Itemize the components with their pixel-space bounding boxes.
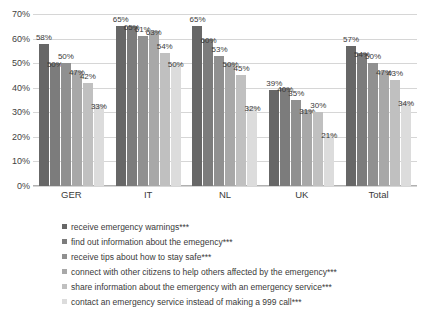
legend-item[interactable]: connect with other citizens to help othe…	[62, 264, 422, 279]
bar-value-label: 50%	[58, 53, 74, 61]
bar-group: 58%50%50%47%42%33%	[33, 14, 110, 186]
bar: 47%	[379, 71, 389, 186]
gridline	[33, 186, 417, 187]
legend-item[interactable]: share information about the emergency wi…	[62, 279, 422, 294]
legend-label: receive tips about how to stay safe***	[71, 252, 211, 262]
legend-item[interactable]: receive emergency warnings***	[62, 219, 422, 234]
bar-value-label: 43%	[387, 70, 403, 78]
bar: 34%	[401, 102, 411, 186]
bar-group: 65%65%61%63%54%50%	[110, 14, 187, 186]
x-axis-label: UK	[263, 188, 340, 204]
bar-value-label: 63%	[146, 29, 162, 37]
bar: 50%	[50, 63, 60, 186]
y-axis-tick: 30%	[12, 108, 30, 117]
bar-value-label: 34%	[398, 100, 414, 108]
legend-label: contact an emergency service instead of …	[71, 297, 302, 307]
bar-value-label: 30%	[310, 102, 326, 110]
bar: 65%	[116, 26, 126, 186]
legend-swatch-icon	[62, 254, 67, 259]
y-axis-tick: 50%	[12, 59, 30, 68]
chart-legend: receive emergency warnings***find out in…	[62, 219, 422, 309]
y-axis-tick: 60%	[12, 34, 30, 43]
bar-value-label: 45%	[233, 65, 249, 73]
bar: 54%	[160, 53, 170, 186]
bar-value-label: 58%	[36, 34, 52, 42]
y-axis-tick: 10%	[12, 157, 30, 166]
y-axis: 70%60%50%40%30%20%10%0%	[0, 0, 32, 205]
bar-value-label: 60%	[200, 37, 216, 45]
bar-value-label: 42%	[80, 73, 96, 81]
bar-value-label: 35%	[288, 90, 304, 98]
bar-groups: 58%50%50%47%42%33%65%65%61%63%54%50%65%6…	[33, 14, 417, 186]
bar: 45%	[236, 75, 246, 186]
legend-label: share information about the emergency wi…	[71, 282, 332, 292]
bar: 50%	[225, 63, 235, 186]
bar-value-label: 32%	[244, 105, 260, 113]
bar: 42%	[83, 83, 93, 186]
bar: 54%	[357, 53, 367, 186]
bar-value-label: 57%	[343, 36, 359, 44]
legend-item[interactable]: contact an emergency service instead of …	[62, 294, 422, 309]
bar-value-label: 53%	[211, 46, 227, 54]
legend-swatch-icon	[62, 224, 67, 229]
y-axis-tick: 0%	[17, 182, 30, 191]
legend-item[interactable]: receive tips about how to stay safe***	[62, 249, 422, 264]
bar: 40%	[280, 88, 290, 186]
bar: 50%	[171, 63, 181, 186]
bar-value-label: 54%	[157, 43, 173, 51]
x-axis-label: Total	[340, 188, 417, 204]
bar: 65%	[192, 26, 202, 186]
plot-area: 58%50%50%47%42%33%65%65%61%63%54%50%65%6…	[33, 14, 417, 186]
bar: 31%	[302, 110, 312, 186]
bar: 50%	[368, 63, 378, 186]
x-axis-label: NL	[187, 188, 264, 204]
bar: 65%	[127, 26, 137, 186]
x-axis-label: IT	[110, 188, 187, 204]
legend-swatch-icon	[62, 299, 67, 304]
legend-swatch-icon	[62, 284, 67, 289]
bar: 43%	[390, 80, 400, 186]
x-axis-label: GER	[33, 188, 110, 204]
bar: 53%	[214, 56, 224, 186]
bar: 61%	[138, 36, 148, 186]
bar: 21%	[324, 134, 334, 186]
bar: 39%	[269, 90, 279, 186]
bar: 47%	[72, 71, 82, 186]
bar-value-label: 50%	[365, 53, 381, 61]
legend-label: connect with other citizens to help othe…	[71, 267, 337, 277]
bar: 32%	[247, 107, 257, 186]
y-axis-tick: 70%	[12, 10, 30, 19]
legend-label: receive emergency warnings***	[71, 222, 189, 232]
bar: 57%	[346, 46, 356, 186]
bar-group: 65%60%53%50%45%32%	[187, 14, 264, 186]
bar-chart: 70%60%50%40%30%20%10%0% 58%50%50%47%42%3…	[0, 0, 427, 328]
legend-swatch-icon	[62, 239, 67, 244]
legend-label: find out information about the emegency*…	[71, 237, 233, 247]
bar-group: 57%54%50%47%43%34%	[340, 14, 417, 186]
bar: 30%	[313, 112, 323, 186]
x-axis-labels: GERITNLUKTotal	[33, 188, 417, 204]
bar: 33%	[94, 105, 104, 186]
bar-value-label: 50%	[168, 61, 184, 69]
bar-value-label: 33%	[91, 103, 107, 111]
bar: 60%	[203, 39, 213, 186]
plot-region: 70%60%50%40%30%20%10%0% 58%50%50%47%42%3…	[0, 0, 427, 205]
bar: 50%	[61, 63, 71, 186]
legend-swatch-icon	[62, 269, 67, 274]
legend-item[interactable]: find out information about the emegency*…	[62, 234, 422, 249]
bar-group: 39%40%35%31%30%21%	[263, 14, 340, 186]
bar-value-label: 65%	[189, 16, 205, 24]
bar: 63%	[149, 31, 159, 186]
y-axis-tick: 40%	[12, 83, 30, 92]
y-axis-tick: 20%	[12, 132, 30, 141]
bar-value-label: 21%	[321, 132, 337, 140]
